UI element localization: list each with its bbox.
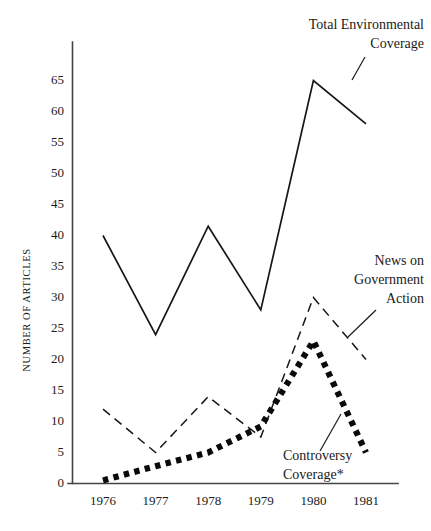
y-tick-label: 55 <box>51 134 64 149</box>
x-tick-label: 1977 <box>143 493 170 508</box>
x-tick-label: 1981 <box>353 493 379 508</box>
annotation-total-environmental-coverage: Total Environmental Coverage <box>309 17 424 51</box>
y-tick-label: 30 <box>51 289 64 304</box>
annotation-line: Coverage* <box>283 467 344 482</box>
x-tick-label: 1979 <box>248 493 274 508</box>
line-chart: 0 5 10 15 20 25 30 35 40 45 50 55 60 65 … <box>0 0 431 531</box>
x-tick-labels: 1976 1977 1978 1979 1980 1981 <box>90 493 379 508</box>
y-tick-label: 5 <box>58 444 65 459</box>
annotation-controversy-coverage: Controversy Coverage* <box>283 448 352 482</box>
y-tick-label: 65 <box>51 72 64 87</box>
x-tick-label: 1980 <box>300 493 326 508</box>
y-tick-label: 25 <box>51 320 64 335</box>
leader-line-news-on-government-action <box>348 310 376 337</box>
annotation-line: News on <box>375 253 424 268</box>
y-tick-label: 40 <box>51 227 64 242</box>
y-tick-label: 45 <box>51 196 64 211</box>
y-axis-title: NUMBER OF ARTICLES <box>21 248 32 371</box>
y-tick-label: 20 <box>51 351 64 366</box>
x-tick-label: 1978 <box>195 493 221 508</box>
annotation-news-on-government-action: News on Government Action <box>354 253 424 306</box>
y-tick-label: 15 <box>51 382 64 397</box>
series-line-total-environmental-coverage <box>103 81 366 335</box>
y-tick-label: 60 <box>51 103 64 118</box>
y-tick-labels: 0 5 10 15 20 25 30 35 40 45 50 55 60 65 <box>51 72 64 490</box>
y-tick-label: 35 <box>51 258 64 273</box>
annotation-line: Coverage <box>370 36 424 51</box>
leader-line-controversy-coverage <box>320 414 341 451</box>
x-tick-label: 1976 <box>90 493 117 508</box>
annotation-line: Total Environmental <box>309 17 424 32</box>
leader-line-total-environmental-coverage <box>352 57 365 80</box>
annotation-line: Government <box>354 272 424 287</box>
annotation-line: Controversy <box>283 448 352 463</box>
y-tick-label: 10 <box>51 413 64 428</box>
y-tick-label: 0 <box>58 475 65 490</box>
chart-figure: 0 5 10 15 20 25 30 35 40 45 50 55 60 65 … <box>0 0 431 531</box>
annotation-line: Action <box>386 291 424 306</box>
y-tick-label: 50 <box>51 165 64 180</box>
